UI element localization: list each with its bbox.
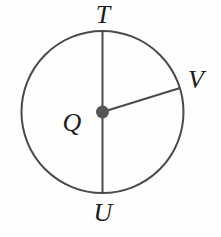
point-label-q: Q [58, 110, 86, 136]
point-label-t: T [89, 2, 117, 28]
radius-line-qv [103, 88, 181, 112]
point-label-v: V [182, 67, 210, 93]
point-label-u: U [89, 200, 117, 226]
geometry-figure-canvas: T Q V U [0, 0, 221, 237]
center-point-dot [96, 106, 109, 119]
